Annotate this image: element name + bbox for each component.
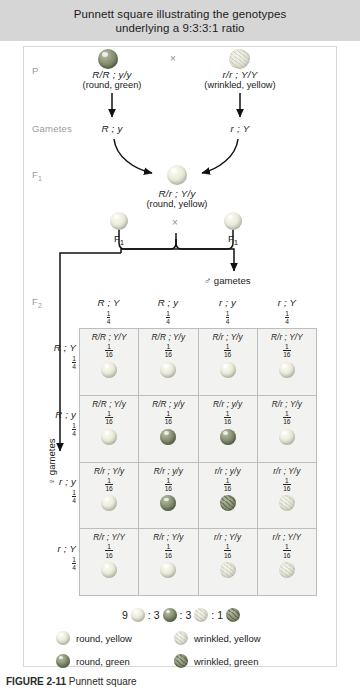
pea-round-yellow-icon (279, 429, 295, 445)
pea-round-yellow-icon (167, 165, 187, 185)
cell-genotype: R/r ; Y/y (153, 533, 183, 542)
pea-wrinkled-yellow-icon (220, 562, 236, 578)
pea-wrinkled-green-icon (220, 495, 236, 511)
figure-caption-prefix: FIGURE 2-11 (6, 676, 66, 687)
fraction: 116 (105, 410, 112, 426)
punnett-cell[interactable]: R/r ; Y/Y116 (80, 529, 138, 595)
column-gamete-label: R ; y (139, 297, 198, 308)
pea-round-green-icon (56, 654, 70, 668)
diagram-panel: P × R/R ; y/y (round, green) r/r ; Y/Y (… (23, 46, 337, 667)
punnett-column-header-4: r ; Y14 (258, 297, 317, 326)
pea-round-yellow-icon (160, 562, 176, 578)
pea-round-yellow-icon (110, 212, 128, 230)
cell-genotype: r/r ; Y/Y (273, 533, 302, 542)
punnett-cell[interactable]: R/R ; y/y116 (139, 396, 197, 462)
fraction: 14 (72, 355, 76, 371)
legend: round, yellowwrinkled, yellowround, gree… (56, 631, 311, 668)
fraction-denominator: 16 (165, 550, 172, 559)
punnett-cell[interactable]: R/r ; Y/y116 (139, 529, 197, 595)
pea-round-yellow-icon (131, 608, 145, 622)
fraction-numerator: 1 (165, 543, 172, 550)
fraction: 14 (107, 310, 111, 326)
cell-genotype: R/r ; Y/y (212, 333, 242, 342)
cell-genotype: R/r ; y/y (154, 467, 183, 476)
pea-round-green-icon (163, 608, 177, 622)
punnett-cell[interactable]: r/r ; Y/Y116 (258, 529, 316, 595)
pea-round-yellow-icon (101, 495, 117, 511)
fraction: 116 (105, 477, 112, 493)
fraction-denominator: 4 (72, 496, 76, 505)
cell-genotype: r/r ; Y/y (273, 467, 300, 476)
fraction-denominator: 16 (165, 484, 172, 493)
punnett-cell[interactable]: R/r ; y/y116 (139, 463, 197, 529)
pea-round-yellow-icon (220, 362, 236, 378)
ratio-count: 9 (122, 609, 128, 621)
punnett-row-header-1: R ; Y14 (28, 342, 76, 371)
cell-genotype: R/R ; Y/Y (92, 333, 127, 342)
f1-cross-symbol: × (172, 217, 178, 228)
punnett-cell[interactable]: R/R ; Y/Y116 (80, 329, 138, 395)
punnett-cell[interactable]: R/r ; Y/Y116 (258, 329, 316, 395)
punnett-cell[interactable]: R/r ; Y/y116 (80, 463, 138, 529)
ratio-count: 3 (154, 609, 160, 621)
column-gamete-label: r ; y (198, 297, 257, 308)
fraction-numerator: 1 (105, 410, 112, 417)
figure-caption-text: Punnett square (69, 676, 137, 687)
cell-genotype: R/r ; Y/y (272, 400, 302, 409)
pea-wrinkled-yellow-icon (229, 49, 250, 69)
cell-genotype: r/r ; y/y (215, 467, 241, 476)
cell-genotype: R/r ; Y/Y (93, 533, 125, 542)
fraction-denominator: 16 (283, 484, 290, 493)
punnett-cell[interactable]: r/r ; y/y116 (199, 463, 257, 529)
fraction: 116 (165, 477, 172, 493)
f1-right-label: F1 (224, 233, 242, 247)
pea-round-yellow-icon (279, 362, 295, 378)
punnett-cell[interactable]: R/r ; Y/y116 (258, 396, 316, 462)
fraction: 14 (285, 310, 289, 326)
punnett-cell[interactable]: R/R ; Y/y116 (80, 396, 138, 462)
parent-left-phenotype: (round, green) (62, 80, 162, 90)
punnett-cell[interactable]: r/r ; Y/y116 (258, 463, 316, 529)
pea-round-yellow-icon (101, 429, 117, 445)
fraction-denominator: 4 (285, 317, 289, 326)
fraction-denominator: 4 (72, 429, 76, 438)
fraction-denominator: 16 (224, 550, 231, 559)
column-gamete-label: R ; Y (79, 297, 138, 308)
fraction: 116 (224, 410, 231, 426)
figure-caption: FIGURE 2-11 Punnett square (6, 676, 354, 687)
fraction-denominator: 16 (165, 350, 172, 359)
fraction-denominator: 16 (224, 484, 231, 493)
legend-item: wrinkled, yellow (174, 631, 304, 645)
fraction-numerator: 1 (105, 543, 112, 550)
fraction: 116 (283, 543, 290, 559)
fraction: 116 (283, 410, 290, 426)
punnett-cell[interactable]: R/r ; Y/y116 (199, 329, 257, 395)
punnett-cell[interactable]: r/r ; Y/y116 (199, 529, 257, 595)
fraction-denominator: 16 (105, 484, 112, 493)
parent-right-phenotype: (wrinkled, yellow) (180, 80, 300, 90)
fraction-denominator: 16 (283, 417, 290, 426)
fraction: 116 (224, 477, 231, 493)
legend-item-label: round, yellow (76, 633, 132, 644)
fraction-denominator: 16 (283, 350, 290, 359)
legend-item-label: wrinkled, yellow (194, 633, 261, 644)
fraction-denominator: 16 (105, 550, 112, 559)
fraction-numerator: 1 (224, 410, 231, 417)
fraction-numerator: 1 (165, 477, 172, 484)
punnett-cell[interactable]: R/r ; y/y116 (199, 396, 257, 462)
fraction-denominator: 4 (166, 317, 170, 326)
f1-pea (167, 165, 187, 189)
pea-round-green-icon (220, 429, 236, 445)
fraction: 116 (224, 343, 231, 359)
fraction-denominator: 16 (283, 550, 290, 559)
fraction-numerator: 1 (105, 343, 112, 350)
figure-header: Punnett square illustrating the genotype… (0, 0, 360, 41)
punnett-cell[interactable]: R/R ; Y/y116 (139, 329, 197, 395)
pea-wrinkled-green-icon (174, 654, 188, 668)
pea-wrinkled-yellow-icon (279, 562, 295, 578)
ratio-separator: : (211, 609, 214, 621)
fraction-numerator: 1 (283, 477, 290, 484)
cell-genotype: R/r ; y/y (213, 400, 242, 409)
fraction-denominator: 16 (165, 417, 172, 426)
fraction: 14 (166, 310, 170, 326)
